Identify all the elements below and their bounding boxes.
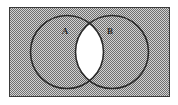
venn-diagram-canvas: A B (0, 0, 178, 105)
set-label-a: A (62, 26, 69, 36)
venn-diagram-figure: A B (0, 0, 178, 105)
set-label-b: B (107, 26, 113, 36)
